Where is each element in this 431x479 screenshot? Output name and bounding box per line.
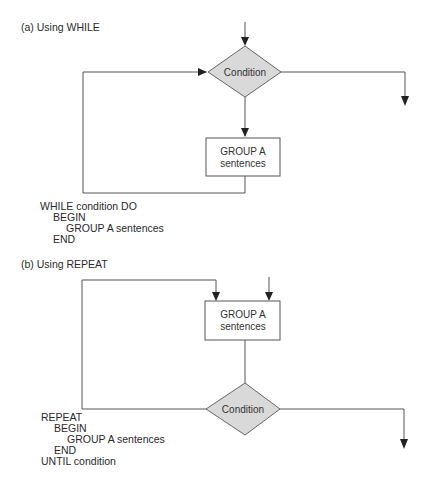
- code-line: END: [53, 233, 76, 245]
- condition-label: Condition: [224, 67, 266, 78]
- group-a-box: [206, 138, 280, 176]
- exit-arrowhead-icon: [401, 96, 409, 106]
- exit-branch-line: [280, 409, 404, 446]
- entry-arrowhead-icon: [241, 37, 249, 46]
- code-line: GROUP A sentences: [66, 222, 164, 234]
- panel-a-while: (a) Using WHILE Condition GROUP A senten…: [21, 21, 409, 245]
- loop-back-arrowhead-icon: [198, 68, 207, 76]
- group-a-line2: sentences: [220, 158, 266, 169]
- group-a-line1: GROUP A: [220, 146, 266, 157]
- loop-back-arrowhead-icon: [212, 292, 220, 301]
- panel-b-title: (b) Using REPEAT: [21, 258, 108, 270]
- group-a-line2: sentences: [220, 321, 266, 332]
- panel-a-title: (a) Using WHILE: [21, 21, 100, 33]
- entry-arrowhead-icon: [265, 292, 273, 301]
- code-line: GROUP A sentences: [67, 433, 165, 445]
- true-branch-arrowhead-icon: [241, 128, 249, 137]
- loop-back-line: [82, 280, 216, 409]
- flowchart-canvas: (a) Using WHILE Condition GROUP A senten…: [0, 0, 431, 479]
- exit-arrowhead-icon: [400, 439, 408, 449]
- repeat-code-block: REPEAT BEGIN GROUP A sentences END UNTIL…: [41, 411, 165, 467]
- panel-b-repeat: (b) Using REPEAT GROUP A sentences Condi…: [21, 258, 408, 467]
- exit-branch-line: [281, 72, 405, 103]
- condition-label: Condition: [222, 404, 264, 415]
- while-code-block: WHILE condition DO BEGIN GROUP A sentenc…: [40, 200, 164, 245]
- code-line: UNTIL condition: [41, 455, 116, 467]
- group-a-line1: GROUP A: [220, 309, 266, 320]
